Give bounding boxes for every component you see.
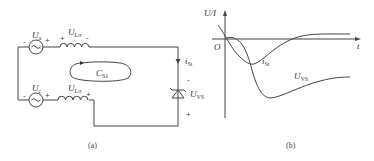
source-top-label: Ua [32,30,42,41]
y-axis-label: U/I [204,8,217,18]
source-bottom-plus: + [45,91,50,100]
ac-source-bottom-icon [29,93,43,107]
source-top-minus: - [23,37,26,46]
diode-plus: + [186,110,191,119]
right-wire [89,47,178,126]
inductor-top-plus: + [60,34,65,43]
inductor-top-label: ULσ [68,27,82,38]
inductor-bottom-minus: - [59,91,62,100]
circuit-diagram: Ua - + ULσ + - Uc - + ULσ - + CS1 iSt - … [18,27,204,150]
ac-source-top-icon [29,40,43,54]
inductor-bottom-icon [58,96,88,100]
waveform-chart: U/I O t iSt UVS (b) [204,8,361,150]
curve-u-label: UVS [294,71,308,82]
curve-u-vs [226,37,350,98]
y-axis-arrow-icon [223,10,227,16]
curve-i-label: iSt [262,56,270,67]
caption-a: (a) [88,141,97,150]
source-top-plus: + [45,36,50,45]
source-bottom-minus: - [23,91,26,100]
loop-arrow-icon [80,61,84,65]
inductor-bottom-label: ULσ [68,83,82,94]
current-label: iSt [185,56,193,67]
curve-i-st [218,25,350,64]
origin-label: O [214,42,221,52]
inductor-top-minus: - [86,33,89,42]
caption-b: (b) [286,141,296,150]
source-bottom-label: Uc [32,83,42,94]
inductor-top-icon [60,43,89,47]
diode-minus: - [187,75,190,84]
loop-label: CS1 [96,68,108,79]
x-axis-label: t [357,41,360,51]
diode-label: UVS [190,89,204,100]
figure-canvas: Ua - + ULσ + - Uc - + ULσ - + CS1 iSt - … [0,0,374,161]
current-arrow-icon [176,59,181,64]
inductor-bottom-plus: + [86,90,91,99]
